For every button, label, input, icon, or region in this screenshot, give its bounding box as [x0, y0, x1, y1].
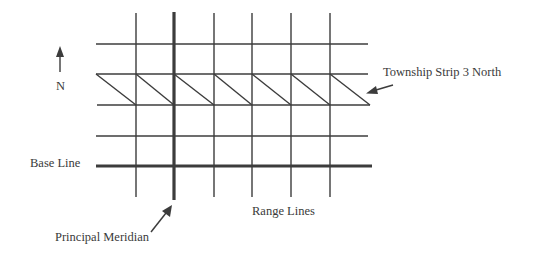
hatch-line — [96, 74, 136, 105]
arrow-up-right-icon — [151, 205, 172, 232]
hatch-line — [330, 74, 370, 105]
hatch-line — [136, 74, 174, 105]
hatch-line — [214, 74, 252, 105]
principal-meridian-label: Principal Meridian — [55, 231, 149, 244]
hatch-line — [291, 74, 330, 105]
base-line-label: Base Line — [30, 157, 80, 170]
township-strip-hatching — [96, 74, 370, 105]
range-lines-label: Range Lines — [252, 205, 315, 218]
arrow-left-icon — [366, 85, 393, 94]
arrow-up-icon — [56, 46, 64, 72]
hatch-line — [252, 74, 291, 105]
north-label: N — [56, 80, 65, 93]
survey-grid-diagram: N Township Strip 3 North Base Line Range… — [0, 0, 537, 255]
township-strip-label: Township Strip 3 North — [383, 66, 501, 79]
hatch-line — [174, 74, 214, 105]
